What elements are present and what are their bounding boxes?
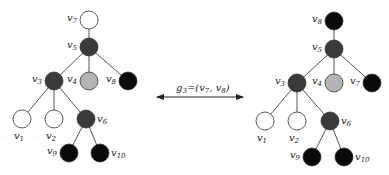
node-v1 bbox=[256, 112, 274, 130]
swap-operation: g3=(v7, v8) bbox=[157, 82, 243, 97]
tree-swap-diagram: v7v5v3v4v8v1v2v6v9v10 v8v5v3v4v7v1v2v6v9… bbox=[0, 0, 389, 175]
right-tree: v8v5v3v4v7v1v2v6v9v10 bbox=[256, 12, 381, 166]
node-label-v7: v7 bbox=[67, 12, 78, 25]
node-v5 bbox=[80, 38, 98, 56]
node-v8 bbox=[119, 72, 137, 90]
node-label-v5: v5 bbox=[67, 39, 78, 52]
node-label-v2: v2 bbox=[46, 130, 57, 143]
node-label-v6: v6 bbox=[341, 115, 352, 128]
node-v10 bbox=[91, 144, 109, 162]
node-label-v8: v8 bbox=[106, 73, 117, 86]
node-label-v1: v1 bbox=[257, 132, 267, 145]
node-label-v3: v3 bbox=[275, 75, 286, 88]
left-tree: v7v5v3v4v8v1v2v6v9v10 bbox=[13, 11, 137, 162]
node-label-v5: v5 bbox=[312, 41, 323, 54]
node-v5 bbox=[325, 40, 343, 58]
node-label-v10: v10 bbox=[111, 147, 126, 160]
node-label-v1: v1 bbox=[14, 130, 24, 143]
node-v4 bbox=[80, 72, 98, 90]
node-label-v9: v9 bbox=[47, 145, 58, 158]
node-v7 bbox=[80, 11, 98, 29]
node-v8 bbox=[325, 12, 343, 30]
node-v9 bbox=[60, 144, 78, 162]
node-v2 bbox=[288, 112, 306, 130]
operation-label: g3=(v7, v8) bbox=[176, 82, 230, 95]
op-label-close: ) bbox=[225, 82, 230, 93]
node-v3 bbox=[288, 74, 306, 92]
node-v2 bbox=[45, 110, 63, 128]
node-v4 bbox=[325, 74, 343, 92]
node-v9 bbox=[303, 148, 321, 166]
node-label-v4: v4 bbox=[67, 73, 77, 86]
node-label-v7: v7 bbox=[350, 75, 361, 88]
node-v7 bbox=[363, 74, 381, 92]
node-label-v3: v3 bbox=[32, 73, 43, 86]
node-label-v9: v9 bbox=[290, 149, 301, 162]
node-label-v2: v2 bbox=[289, 132, 300, 145]
op-label-sep: , v bbox=[209, 82, 221, 93]
node-v6 bbox=[77, 110, 95, 128]
node-v3 bbox=[45, 72, 63, 90]
node-v6 bbox=[321, 112, 339, 130]
node-v10 bbox=[335, 148, 353, 166]
node-label-v8: v8 bbox=[312, 13, 323, 26]
node-label-v6: v6 bbox=[97, 113, 108, 126]
node-label-v4: v4 bbox=[312, 75, 322, 88]
node-label-v10: v10 bbox=[355, 151, 370, 164]
node-v1 bbox=[13, 110, 31, 128]
op-label-rest: =(v bbox=[187, 82, 205, 93]
